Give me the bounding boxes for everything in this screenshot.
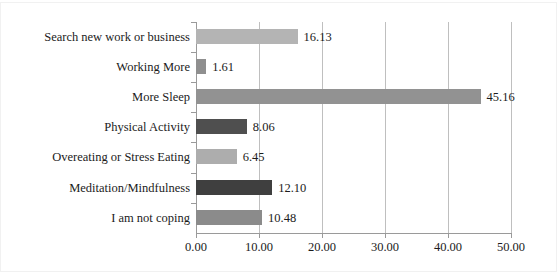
x-axis-tick-label: 50.00 (497, 240, 525, 255)
bar-row: Working More1.61 (0, 52, 558, 82)
category-label: Physical Activity (6, 112, 190, 142)
y-axis-tick (191, 22, 196, 23)
bar-value-label: 12.10 (278, 173, 306, 203)
bar-row: Physical Activity8.06 (0, 112, 558, 142)
x-axis-tick-mark (385, 233, 386, 238)
x-axis-tick-mark (322, 233, 323, 238)
x-axis-tick-label: 0.00 (185, 240, 207, 255)
x-axis-line (196, 233, 512, 234)
bar-value-label: 8.06 (253, 112, 275, 142)
y-axis-tick (191, 203, 196, 204)
x-axis-tick-mark (259, 233, 260, 238)
bar (196, 89, 481, 104)
y-axis-tick (191, 112, 196, 113)
x-axis-tick-label: 10.00 (245, 240, 273, 255)
bar (196, 59, 206, 74)
bar (196, 149, 237, 164)
bar-chart: Search new work or business16.13Working … (0, 0, 558, 275)
bar (196, 119, 247, 134)
bar-value-label: 1.61 (212, 52, 234, 82)
category-label: Search new work or business (6, 22, 190, 52)
bar-row: Meditation/Mindfulness12.10 (0, 173, 558, 203)
y-axis-tick (191, 82, 196, 83)
category-label: More Sleep (6, 82, 190, 112)
bar (196, 180, 272, 195)
bar-value-label: 6.45 (243, 142, 265, 172)
bar-row: Overeating or Stress Eating6.45 (0, 142, 558, 172)
bar-value-label: 16.13 (304, 22, 332, 52)
category-label: Overeating or Stress Eating (6, 142, 190, 172)
x-axis-tick-mark (511, 233, 512, 238)
x-axis-tick-label: 30.00 (371, 240, 399, 255)
bar-row: More Sleep45.16 (0, 82, 558, 112)
bar (196, 210, 262, 225)
x-axis-tick-mark (448, 233, 449, 238)
bar-row: Search new work or business16.13 (0, 22, 558, 52)
x-axis-tick-mark (196, 233, 197, 238)
category-label: I am not coping (6, 203, 190, 233)
x-axis-tick-label: 20.00 (308, 240, 336, 255)
x-axis-tick-label: 40.00 (434, 240, 462, 255)
y-axis-tick (191, 173, 196, 174)
y-axis-tick (191, 52, 196, 53)
bar-value-label: 10.48 (268, 203, 296, 233)
category-label: Working More (6, 52, 190, 82)
category-label: Meditation/Mindfulness (6, 173, 190, 203)
bar (196, 29, 298, 44)
bar-row: I am not coping10.48 (0, 203, 558, 233)
y-axis-tick (191, 142, 196, 143)
bar-value-label: 45.16 (487, 82, 515, 112)
